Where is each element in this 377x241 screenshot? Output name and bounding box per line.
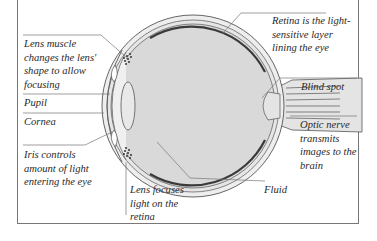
- label-line: entering the eye: [24, 175, 114, 189]
- label-fluid: Fluid: [264, 183, 287, 197]
- lens-shape: [121, 82, 135, 130]
- blind-spot-shape: [263, 92, 280, 120]
- label-line: Optic nerve: [300, 118, 360, 132]
- label-line: lining the eye: [272, 41, 362, 55]
- label-line: images to the: [300, 145, 360, 159]
- label-line: Lens muscle: [24, 37, 114, 51]
- label-retina: Retina is the light- sensitive layer lin…: [272, 14, 362, 55]
- label-line: sensitive layer: [272, 28, 362, 42]
- label-pupil: Pupil: [24, 96, 47, 110]
- label-line: Iris controls: [24, 148, 114, 162]
- label-optic-nerve: Optic nerve transmits images to the brai…: [300, 118, 360, 172]
- label-line: Retina is the light-: [272, 14, 362, 28]
- label-line: transmits: [300, 132, 360, 146]
- label-iris: Iris controls amount of light entering t…: [24, 148, 114, 189]
- label-line: retina: [130, 210, 210, 224]
- label-cornea: Cornea: [24, 115, 56, 129]
- label-lens-focuses: Lens focuses light on the retina: [130, 183, 210, 224]
- label-line: light on the: [130, 197, 210, 211]
- label-line: shape to allow: [24, 64, 114, 78]
- label-line: focusing: [24, 78, 114, 92]
- label-lens-muscle: Lens muscle changes the lens' shape to a…: [24, 37, 114, 91]
- label-blind-spot: Blind spot: [301, 80, 344, 94]
- label-line: amount of light: [24, 162, 114, 176]
- label-line: brain: [300, 159, 360, 173]
- label-line: changes the lens': [24, 51, 114, 65]
- label-line: Lens focuses: [130, 183, 210, 197]
